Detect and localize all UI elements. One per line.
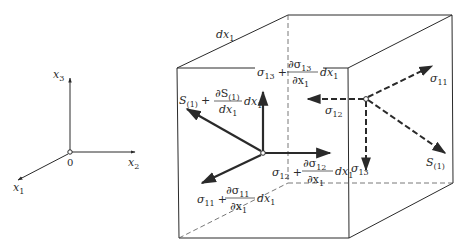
- svg-text:∂x1: ∂x1: [292, 74, 309, 89]
- svg-text:σ11+: σ11+: [197, 193, 227, 208]
- x3-axis-label: x3: [53, 68, 64, 83]
- svg-text:∂S(1): ∂S(1): [215, 87, 240, 102]
- svg-text:dx1: dx1: [244, 95, 262, 110]
- svg-text:∂σ13: ∂σ13: [288, 58, 311, 73]
- cube-edge-label: dx1: [216, 28, 234, 43]
- x2-axis-label: x2: [128, 156, 139, 171]
- front-s-label: S(1)+ ∂S(1) dx1 dx1: [179, 87, 262, 118]
- svg-text:∂σ12: ∂σ12: [303, 157, 326, 172]
- origin-point: [68, 150, 72, 154]
- svg-text:∂x1: ∂x1: [230, 200, 247, 215]
- back-face-vectors: [308, 66, 445, 170]
- front-face-center: [261, 151, 266, 156]
- back-sigma11-arrow: [368, 66, 432, 97]
- front-sigma11-label: σ11+ ∂σ11 ∂x1 dx1: [197, 184, 275, 215]
- svg-text:∂σ11: ∂σ11: [226, 184, 249, 199]
- coordinate-axes: [18, 78, 135, 180]
- front-sigma12-label: σ12+ ∂σ12 ∂x1 dx1: [272, 157, 353, 188]
- origin-label: 0: [67, 157, 73, 168]
- front-sigma13-label: σ13+ ∂σ13 ∂x1 dx1: [257, 58, 338, 89]
- back-s-arrow: [368, 100, 445, 153]
- svg-text:dx1: dx1: [219, 103, 237, 118]
- svg-text:S(1)+: S(1)+: [179, 94, 210, 109]
- svg-text:dx1: dx1: [257, 192, 275, 207]
- front-sigma11-arrow: [202, 155, 261, 183]
- stress-element-diagram: 0 x3 x2 x1 dx1 S(1)+ ∂S(1) dx1 dx1: [0, 0, 466, 250]
- x1-axis-label: x1: [13, 181, 24, 196]
- svg-text:σ12+: σ12+: [272, 166, 302, 181]
- back-face-center: [364, 97, 369, 102]
- back-s-label: S(1): [426, 156, 445, 171]
- svg-text:σ13+: σ13+: [257, 66, 287, 81]
- x1-axis: [18, 154, 68, 180]
- svg-text:∂x1: ∂x1: [307, 173, 324, 188]
- back-sigma12-label: σ12: [325, 104, 343, 119]
- back-sigma11-label: σ11: [430, 72, 448, 87]
